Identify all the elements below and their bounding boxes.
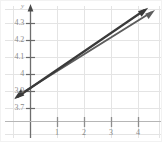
coordinate-plane — [1, 1, 162, 142]
x-tick-label-3: 3 — [102, 128, 120, 137]
data-line-1 — [14, 8, 148, 100]
y-tick-label-4-3: 4.3 — [1, 18, 24, 27]
grid-lines — [5, 6, 161, 138]
y-tick-label-3-9: 3.9 — [1, 86, 24, 95]
x-tick-label-2: 2 — [75, 128, 93, 137]
y-tick-label-4-1: 4.1 — [1, 52, 24, 61]
y-axis-label: y — [21, 2, 24, 10]
x-tick-label-1: 1 — [48, 128, 66, 137]
graph-figure: y 4.3 4.2 4.1 4 3.9 3.7 1 2 3 4 — [0, 0, 162, 142]
y-tick-label-4-2: 4.2 — [1, 35, 24, 44]
y-tick-label-4: 4 — [1, 69, 24, 78]
y-tick-label-3-7: 3.7 — [1, 103, 24, 112]
x-tick-label-4: 4 — [129, 128, 147, 137]
